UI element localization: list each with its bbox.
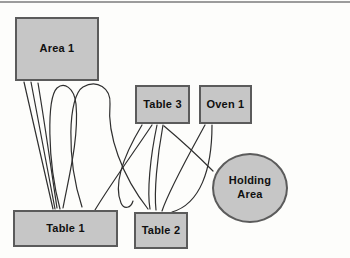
node-table-3: Table 3 <box>135 85 190 124</box>
node-table-1: Table 1 <box>13 210 118 247</box>
edge-oven-1-to-table-2 <box>162 125 205 211</box>
node-holding-area: Holding Area <box>212 153 288 223</box>
node-table-2-label: Table 2 <box>142 224 181 238</box>
edge-table-3-to-holding-area <box>164 126 213 171</box>
edge-table-1-to-table-3 <box>95 125 152 210</box>
edge-area-1-to-table-1 <box>24 82 53 209</box>
node-area-1: Area 1 <box>15 17 99 81</box>
node-holding-area-label: Holding Area <box>224 174 276 202</box>
node-table-2: Table 2 <box>134 212 188 249</box>
node-oven-1: Oven 1 <box>199 85 252 124</box>
edge-table-2-to-table-3 <box>155 125 163 210</box>
node-area-1-label: Area 1 <box>40 42 75 56</box>
edge-area-1-to-table-1 <box>38 83 57 208</box>
node-oven-1-label: Oven 1 <box>207 98 245 112</box>
node-table-3-label: Table 3 <box>143 98 182 112</box>
node-table-1-label: Table 1 <box>46 222 85 236</box>
spaghetti-diagram-figure: Area 1 Table 3 Oven 1 Holding Area Table… <box>0 0 350 258</box>
